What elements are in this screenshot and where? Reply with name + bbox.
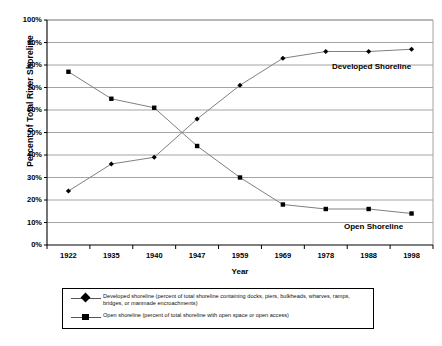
legend-entry-open: Open shoreline (percent of total shoreli… — [69, 312, 289, 322]
x-tick-label: 1969 — [260, 252, 306, 260]
x-tick-label: 1959 — [217, 252, 263, 260]
x-tick-label: 1935 — [88, 252, 134, 260]
y-tick-label: 10% — [8, 219, 42, 227]
legend-entry-open-text: Open shoreline (percent of total shoreli… — [103, 312, 289, 319]
y-tick-label: 80% — [8, 61, 42, 69]
diamond-marker-icon — [69, 294, 103, 303]
y-tick-label: 90% — [8, 39, 42, 47]
y-tick-label: 20% — [8, 196, 42, 204]
x-tick-label: 1978 — [303, 252, 349, 260]
open-shoreline-label: Open Shoreline — [344, 222, 403, 231]
y-tick-label: 60% — [8, 106, 42, 114]
x-tick-label: 1988 — [346, 252, 392, 260]
x-tick-label: 1922 — [45, 252, 91, 260]
x-tick-label: 1940 — [131, 252, 177, 260]
y-tick-label: 40% — [8, 151, 42, 159]
shoreline-line-chart: Percent of Total River Shoreline 0%10%20… — [0, 0, 442, 346]
legend-developed-line-1: Developed shoreline (percent of total sh… — [103, 293, 350, 299]
x-tick-label: 1947 — [174, 252, 220, 260]
square-marker-icon — [69, 313, 103, 322]
x-tick-label: 1998 — [389, 252, 435, 260]
y-tick-label: 70% — [8, 84, 42, 92]
y-tick-label: 0% — [8, 241, 42, 249]
chart-legend: Developed shoreline (percent of total sh… — [62, 288, 374, 329]
y-tick-label: 100% — [8, 16, 42, 24]
legend-entry-developed-text: Developed shoreline (percent of total sh… — [103, 293, 369, 307]
x-axis-title: Year — [47, 267, 433, 276]
y-tick-label: 50% — [8, 129, 42, 137]
legend-entry-developed: Developed shoreline (percent of total sh… — [69, 293, 369, 307]
legend-developed-line-2: bridges, or manmade encroachments) — [103, 300, 198, 306]
developed-shoreline-label: Developed Shoreline — [332, 62, 411, 71]
y-tick-label: 30% — [8, 174, 42, 182]
